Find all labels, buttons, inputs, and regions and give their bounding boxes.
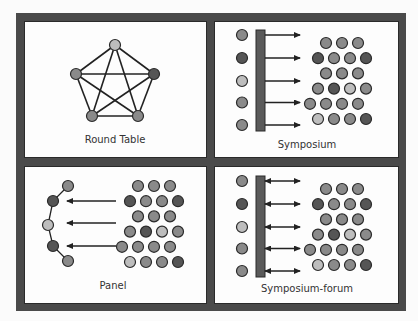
audience-node — [173, 226, 184, 237]
participant-node — [133, 111, 144, 122]
audience-node — [345, 199, 356, 210]
audience-node — [141, 226, 152, 237]
speaker-node — [237, 222, 248, 233]
panelist-node — [48, 241, 59, 252]
label-panel: Panel — [100, 280, 127, 291]
participant-node — [149, 69, 160, 80]
audience-node — [305, 244, 316, 255]
connection-line — [115, 45, 138, 116]
audience-node — [361, 199, 372, 210]
audience-node — [337, 68, 348, 79]
participant-node — [71, 69, 82, 80]
audience-node — [329, 199, 340, 210]
audience-node — [149, 241, 160, 252]
audience-node — [353, 68, 364, 79]
speaker-node — [237, 120, 248, 131]
audience-node — [133, 211, 144, 222]
audience-node — [149, 181, 160, 192]
audience-node — [125, 226, 136, 237]
symposium-diagram — [237, 30, 372, 132]
audience-node — [353, 98, 364, 109]
audience-node — [117, 241, 128, 252]
audience-node — [321, 184, 332, 195]
audience-node — [361, 53, 372, 64]
audience-node — [345, 83, 356, 94]
audience-node — [313, 199, 324, 210]
audience-node — [329, 114, 340, 125]
speaker-node — [237, 30, 248, 41]
audience-node — [125, 196, 136, 207]
audience-node — [313, 260, 324, 271]
panelist-node — [63, 256, 74, 267]
connection-line — [92, 45, 115, 116]
speaker-node — [237, 266, 248, 277]
audience-node — [337, 184, 348, 195]
audience-node — [321, 244, 332, 255]
audience-node — [337, 214, 348, 225]
panelist-node — [63, 181, 74, 192]
audience-node — [345, 229, 356, 240]
audience-node — [141, 257, 152, 268]
audience-node — [345, 53, 356, 64]
panel-diagram — [43, 181, 184, 268]
audience-node — [157, 257, 168, 268]
audience-node — [337, 98, 348, 109]
speaker-node — [237, 53, 248, 64]
audience-node — [329, 83, 340, 94]
audience-node — [173, 196, 184, 207]
audience-node — [157, 226, 168, 237]
connection-line — [115, 45, 154, 74]
audience-node — [353, 38, 364, 49]
audience-node — [361, 260, 372, 271]
round-table-graph — [71, 40, 160, 122]
connection-line — [76, 74, 138, 116]
audience-node — [321, 214, 332, 225]
audience-node — [321, 38, 332, 49]
audience-node — [165, 211, 176, 222]
audience-node — [313, 83, 324, 94]
audience-node — [173, 257, 184, 268]
audience-node — [361, 229, 372, 240]
symposium-forum-diagram — [237, 176, 372, 278]
audience-node — [157, 196, 168, 207]
speaker-node — [237, 243, 248, 254]
connection-line — [92, 74, 154, 116]
audience-node — [353, 184, 364, 195]
audience-node — [321, 68, 332, 79]
audience-node — [165, 181, 176, 192]
label-symposium-forum: Symposium-forum — [261, 283, 353, 294]
audience-node — [305, 98, 316, 109]
participant-node — [87, 111, 98, 122]
participant-node — [110, 40, 121, 51]
speaker-node — [237, 97, 248, 108]
audience-node — [329, 260, 340, 271]
moderator-bar — [256, 30, 265, 131]
audience-node — [141, 196, 152, 207]
panelist-node — [43, 220, 54, 231]
panelist-node — [48, 196, 59, 207]
audience-node — [337, 38, 348, 49]
moderator-bar — [256, 176, 265, 277]
connection-line — [76, 45, 115, 74]
audience-node — [345, 260, 356, 271]
audience-node — [165, 241, 176, 252]
audience-node — [133, 181, 144, 192]
audience-node — [329, 229, 340, 240]
speaker-node — [237, 176, 248, 187]
audience-node — [345, 114, 356, 125]
label-round-table: Round Table — [85, 134, 146, 145]
audience-node — [149, 211, 160, 222]
audience-node — [321, 98, 332, 109]
audience-node — [361, 83, 372, 94]
speaker-node — [237, 76, 248, 87]
audience-node — [313, 114, 324, 125]
speaker-node — [237, 199, 248, 210]
audience-node — [353, 244, 364, 255]
audience-node — [353, 214, 364, 225]
audience-node — [313, 53, 324, 64]
diagram-artwork: Round Table Symposium Panel Symposium-fo… — [0, 0, 418, 321]
audience-node — [133, 241, 144, 252]
label-symposium: Symposium — [278, 139, 337, 150]
audience-node — [125, 257, 136, 268]
audience-node — [337, 244, 348, 255]
